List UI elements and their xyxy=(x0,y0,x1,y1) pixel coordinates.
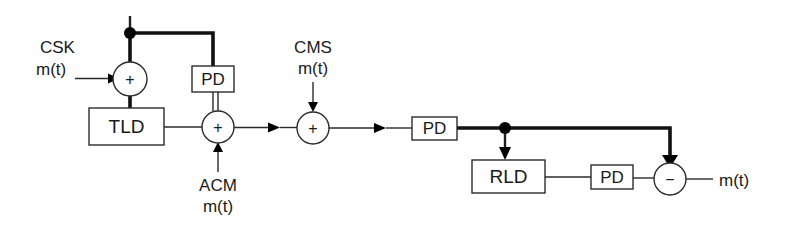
label-cms: CMS m(t) xyxy=(294,38,332,78)
block-diagram: + + + − TLD PD PD RLD xyxy=(0,0,792,228)
label-csk-title: CSK xyxy=(40,38,76,57)
plus-sign-2: + xyxy=(213,119,222,136)
diagram-canvas: + + + − TLD PD PD RLD xyxy=(0,0,792,228)
block-pd2-label: PD xyxy=(423,119,447,138)
label-acm-title: ACM xyxy=(199,176,237,195)
summing-junction-cms[interactable]: + xyxy=(297,112,329,144)
block-tld-label: TLD xyxy=(109,116,145,137)
block-tld[interactable]: TLD xyxy=(89,108,164,145)
block-pd-feedback-top[interactable]: PD xyxy=(192,66,234,92)
wire-tap-to-sub1 xyxy=(505,128,670,155)
node-dot-top xyxy=(124,27,136,39)
block-pd1-label: PD xyxy=(201,70,225,89)
wire-sum2-to-sum3 xyxy=(234,123,297,133)
label-acm-signal: m(t) xyxy=(203,197,233,216)
label-csk-signal: m(t) xyxy=(36,60,66,79)
label-cms-title: CMS xyxy=(294,38,332,57)
label-cms-signal: m(t) xyxy=(298,59,328,78)
block-rld[interactable]: RLD xyxy=(472,160,545,193)
block-pd-main[interactable]: PD xyxy=(412,117,457,140)
block-pd3-label: PD xyxy=(600,168,624,187)
block-pd-receiver[interactable]: PD xyxy=(591,165,633,189)
summing-junction-acm[interactable]: + xyxy=(202,111,234,143)
wire-tap-to-pd1 xyxy=(130,33,213,66)
subtracting-junction[interactable]: − xyxy=(654,163,686,195)
wire-sum3-to-pd2 xyxy=(329,123,412,133)
node-dot-feedback xyxy=(499,122,511,134)
plus-sign-3: + xyxy=(308,120,317,137)
wire-acm-input xyxy=(213,142,223,172)
label-acm: ACM m(t) xyxy=(199,176,237,216)
plus-sign-1: + xyxy=(125,71,134,88)
wire-cms-input xyxy=(308,82,318,112)
block-rld-label: RLD xyxy=(489,166,527,187)
label-output-signal: m(t) xyxy=(719,171,749,190)
summing-junction-csk[interactable]: + xyxy=(113,62,147,96)
minus-sign: − xyxy=(665,171,674,188)
label-csk: CSK m(t) xyxy=(36,38,76,79)
